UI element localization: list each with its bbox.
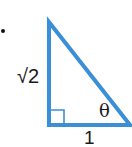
horizontal-leg-label: 1 (84, 128, 95, 147)
right-triangle-figure: √2 θ 1 (0, 0, 132, 147)
vertical-leg-label: √2 (17, 66, 39, 86)
angle-theta-label: θ (99, 102, 110, 120)
right-angle-marker (49, 110, 64, 125)
